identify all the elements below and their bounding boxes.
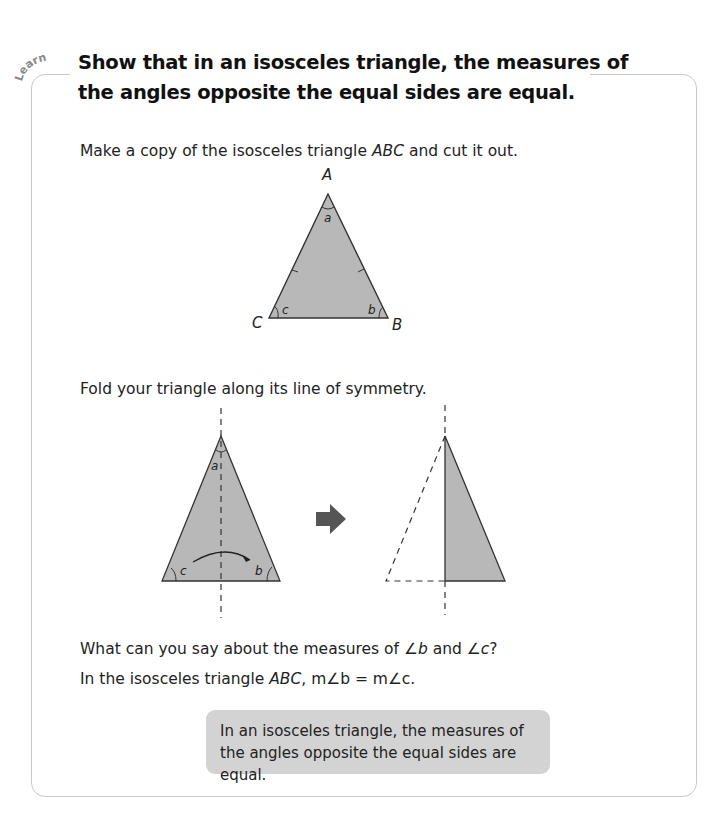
fold-angle-a-label: a [211,459,218,473]
vertex-a-label: A [321,166,332,184]
fold-angle-c-label: c [180,564,187,578]
learn-tag: Learn [12,46,72,86]
triangle-abc-figure: A C B a c b [240,150,420,340]
fold-angle-b-label: b [255,564,263,578]
fold-figure: a c b [150,400,520,620]
angle-c-label: c [282,303,289,317]
vertex-c-label: C [252,314,263,332]
right-arrow-icon [316,504,346,534]
question-text: What can you say about the measures of ∠… [80,640,497,658]
lesson-title: Show that in an isosceles triangle, the … [78,48,638,108]
angle-b-label: b [368,303,376,317]
conclusion-box: In an isosceles triangle, the measures o… [206,710,550,774]
step2-text: Fold your triangle along its line of sym… [80,380,427,398]
learn-label: Learn [12,51,47,83]
angle-a-label: a [324,211,331,225]
vertex-b-label: B [392,316,402,334]
svg-text:Learn: Learn [12,51,47,83]
answer-text: In the isosceles triangle ABC, m∠b = m∠c… [80,670,415,688]
